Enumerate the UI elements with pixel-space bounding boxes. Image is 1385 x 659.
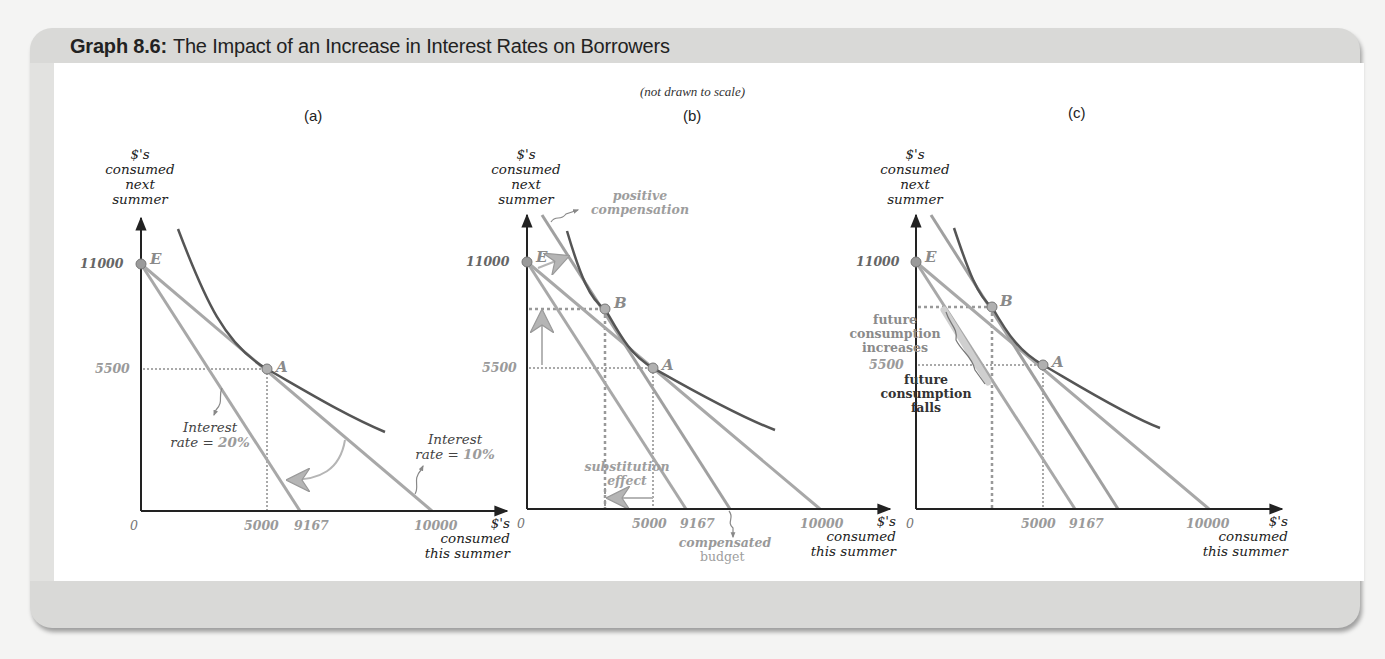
y-tick-5500-a: 5500 [95,361,130,376]
y-tick-11000-a: 11000 [80,256,124,271]
x-axis-label-a: $'s consumed this summer [370,516,510,561]
rotation-arrow-a [290,440,345,480]
y-tick-11000-b: 11000 [466,254,510,269]
pointer-20pct-a [214,388,222,415]
indifference-curve-a [178,229,385,432]
point-label-e-c: E [925,248,936,266]
x-tick-5000-b: 5000 [632,516,667,531]
pointer-compensated-budget-b [729,511,733,537]
panel-label-a: (a) [304,107,322,124]
point-label-a-c: A [1052,353,1064,371]
label-future-consumption-increases-c: future consumption increases [830,313,960,355]
point-a-b [648,363,658,373]
y-tick-5500-c: 5500 [869,357,904,372]
compensated-budget-c [931,215,1118,509]
point-label-e-a: E [150,250,161,268]
panel-label-b: (b) [683,107,701,124]
x-tick-9167-a: 9167 [294,518,329,533]
point-e-b [522,257,532,267]
point-b-c [987,302,997,312]
x-tick-9167-c: 9167 [1069,516,1104,531]
label-interest-20-a: Interest rate = 20% [150,420,270,450]
origin-a: 0 [130,518,138,533]
x-tick-9167-b: 9167 [680,516,715,531]
scale-note: (not drawn to scale) [0,84,1385,100]
label-compensated-budget-b: compensated [670,536,780,550]
panel-a [136,218,507,511]
label-budget-word-b: budget [700,549,744,564]
point-e-a [136,259,146,269]
y-axis-label-c: $'s consumed next summer [855,147,975,207]
pointer-compensation-b [551,210,578,222]
y-axis-label-a: $'s consumed next summer [80,147,200,207]
point-e-c [911,257,921,267]
label-positive-compensation-b: positive compensation [580,189,700,217]
budget-20pct-a [141,264,300,511]
panel-c [911,215,1282,509]
y-axis-label-b: $'s consumed next summer [466,147,586,207]
x-tick-5000-a: 5000 [244,518,279,533]
y-tick-11000-c: 11000 [856,254,900,269]
point-label-a-a: A [276,358,288,376]
y-tick-5500-b: 5500 [482,360,517,375]
pointer-10pct-a [415,466,423,494]
point-label-b-c: B [1000,292,1013,310]
label-interest-10-a: Interest rate = 10% [395,432,515,462]
indifference-curve-b [567,231,775,430]
point-b-b [600,304,610,314]
panel-label-c: (c) [1068,104,1086,121]
point-a-c [1038,360,1048,370]
budget-10pct-a [141,264,432,511]
point-label-e-b: E [536,248,547,266]
point-label-a-b: A [662,356,674,374]
x-axis-label-c: $'s consumed this summer [1148,514,1288,559]
label-future-consumption-falls-c: future consumption falls [866,373,986,415]
origin-b: 0 [517,516,525,531]
label-substitution-effect-b: substitution effect [572,460,682,488]
point-a-a [262,364,272,374]
x-tick-5000-c: 5000 [1021,516,1056,531]
origin-c: 0 [906,516,914,531]
point-label-b-b: B [614,294,627,312]
